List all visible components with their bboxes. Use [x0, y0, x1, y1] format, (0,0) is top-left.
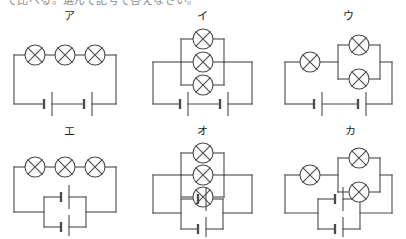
lamp-icon: [193, 165, 213, 185]
lamp-icon: [193, 75, 213, 95]
clipped-header-strip: で比べる。選んで記号で答えなさい。: [0, 0, 406, 9]
clipped-header-text: で比べる。選んで記号で答えなさい。: [6, 0, 199, 7]
lamp-icon: [300, 52, 320, 72]
battery-cell-icon: [198, 217, 206, 237]
battery-cell-icon: [61, 215, 69, 236]
lamp-icon: [25, 157, 45, 177]
lamp-icon: [193, 29, 213, 49]
battery-cell-icon: [44, 92, 52, 116]
battery-cell-icon: [180, 92, 188, 116]
circuit-diagram-i: [135, 22, 270, 122]
circuit-diagram-ka: [270, 137, 406, 237]
lamp-icon: [349, 182, 369, 202]
circuit-cell-e: エ: [0, 124, 135, 239]
lamp-icon: [349, 69, 369, 89]
circuit-diagram-a: [0, 22, 135, 122]
battery-cell-icon: [358, 92, 366, 116]
lamp-icon: [349, 35, 369, 55]
lamp-icon: [193, 187, 213, 207]
circuit-cell-a: ア: [0, 9, 135, 124]
lamp-icon: [300, 165, 320, 185]
battery-cell-icon: [84, 92, 92, 116]
lamp-icon: [85, 157, 105, 177]
battery-cell-icon: [61, 185, 69, 209]
circuit-diagram-u: [270, 22, 406, 122]
lamp-icon: [55, 45, 75, 65]
battery-cell-icon: [314, 92, 322, 116]
circuit-cell-u: ウ: [270, 9, 406, 124]
lamp-icon: [85, 45, 105, 65]
lamp-icon: [349, 148, 369, 168]
lamp-icon: [25, 45, 45, 65]
circuit-grid: ア: [0, 9, 406, 239]
circuit-diagram-o: [135, 137, 270, 237]
circuit-cell-ka: カ: [270, 124, 406, 239]
circuit-cell-o: オ: [135, 124, 270, 239]
lamp-icon: [193, 143, 213, 163]
lamp-icon: [55, 157, 75, 177]
circuit-cell-i: イ: [135, 9, 270, 124]
battery-cell-icon: [335, 217, 343, 237]
circuit-diagram-page: で比べる。選んで記号で答えなさい。 ア: [0, 0, 406, 239]
lamp-icon: [193, 52, 213, 72]
circuit-diagram-e: [0, 137, 135, 237]
battery-cell-icon: [335, 187, 343, 211]
battery-cell-icon: [220, 92, 228, 116]
